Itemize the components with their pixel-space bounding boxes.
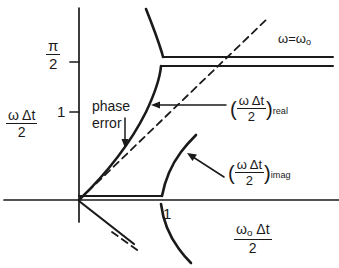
x-axis-label-numerator: ωo Δt [234, 222, 272, 240]
imag-callout-arrow-shaft [193, 157, 224, 177]
y-axis-label-numerator: ω Δt [6, 108, 37, 124]
real-branch-label: ( ω Δt 2 )real [230, 94, 288, 124]
imag-label-denominator: 2 [235, 173, 264, 187]
real-label-subscript: real [273, 106, 288, 116]
imag-label-subscript: imag [271, 170, 291, 180]
imag-label-numerator: ω Δt [235, 158, 264, 173]
phase-error-label: phase error [92, 98, 130, 131]
curve-negative-real-branch [79, 201, 134, 244]
imag-branch-label: ( ω Δt 2 )imag [228, 158, 291, 188]
x-axis-tick-label-one: 1 [163, 206, 171, 221]
y-axis-tick-label-one: 1 [57, 104, 65, 119]
imag-label-close-paren: ) [264, 162, 271, 184]
phase-error-line-1: phase [92, 98, 130, 115]
real-label-close-paren: ) [266, 98, 273, 120]
phase-error-line-2: error [92, 115, 130, 132]
real-label-denominator: 2 [237, 109, 266, 123]
y-axis-label-denominator: 2 [6, 124, 37, 139]
imag-callout-arrow-head [187, 153, 197, 161]
y-axis-tick-label-pi-over-2: π 2 [46, 38, 60, 72]
x-axis-label-omega: ω [236, 221, 247, 237]
x-axis-label-delta-t: Δt [256, 221, 269, 237]
real-label-open-paren: ( [230, 98, 237, 120]
pi-over-2-numerator: π [46, 38, 60, 55]
omega-equals-text: ω=ω [278, 31, 306, 46]
dispersion-diagram-figure: π 2 1 1 ω Δt 2 ωo Δt 2 ω=ωo phase error … [0, 0, 339, 268]
real-callout-arrow-head [151, 102, 160, 109]
y-axis-label: ω Δt 2 [6, 108, 37, 140]
x-axis-label-omega-subscript: o [247, 227, 252, 238]
x-axis-label-denominator: 2 [234, 240, 272, 255]
line-negative-omega-reference-dashed [112, 232, 140, 252]
real-label-numerator: ω Δt [237, 94, 266, 109]
x-axis-label: ωo Δt 2 [234, 222, 272, 256]
curve-imag-branch [162, 135, 196, 196]
pi-over-2-denominator: 2 [46, 55, 60, 71]
omega-equals-omega0-label: ω=ωo [278, 32, 311, 47]
imag-label-open-paren: ( [228, 162, 235, 184]
omega-equals-subscript: o [306, 37, 311, 47]
curve-real-descending-branch [146, 9, 163, 57]
